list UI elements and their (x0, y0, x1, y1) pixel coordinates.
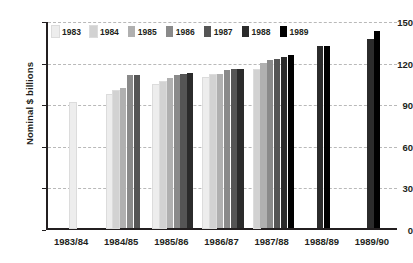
y-axis-title: Nominal $ billions (24, 29, 35, 179)
bar (180, 74, 186, 228)
bar (317, 46, 323, 228)
bar (260, 63, 266, 228)
bar-group (198, 22, 248, 228)
bar (120, 88, 126, 228)
legend-item: 1983 (52, 26, 81, 37)
legend-label: 1989 (290, 27, 309, 37)
legend-label: 1988 (252, 27, 271, 37)
x-tick-label: 1986/87 (204, 236, 238, 247)
bar-chart: Nominal $ billions 0306090120150 1983/84… (0, 0, 413, 263)
bar (288, 55, 294, 228)
bar (203, 78, 209, 228)
bar (324, 46, 330, 228)
bar (224, 70, 230, 228)
legend-label: 1984 (100, 27, 119, 37)
bar-group (148, 22, 198, 228)
bar (374, 31, 380, 228)
legend-swatch (128, 26, 135, 37)
legend-swatch (166, 26, 173, 37)
bar (254, 70, 260, 228)
bar (107, 95, 113, 228)
bar (267, 60, 273, 228)
x-tick-label: 1983/84 (54, 236, 88, 247)
x-tick-label: 1985/86 (154, 236, 188, 247)
plot-area (46, 22, 397, 230)
bar (174, 75, 180, 228)
legend-swatch (52, 26, 59, 37)
legend-label: 1986 (176, 27, 195, 37)
x-tick-label: 1987/88 (254, 236, 288, 247)
bar (237, 69, 243, 228)
legend-item: 1986 (166, 26, 195, 37)
bar-group (48, 22, 98, 228)
legend-swatch (90, 26, 97, 37)
bar (134, 75, 140, 228)
legend-swatch (280, 26, 287, 37)
bar-series-container (48, 22, 397, 228)
legend-item: 1985 (128, 26, 157, 37)
bar-group (349, 22, 399, 228)
bar (210, 75, 216, 228)
legend: 1983198419851986198719881989 (52, 26, 317, 37)
bar (367, 39, 373, 228)
bar (153, 85, 159, 228)
bar (113, 91, 119, 228)
x-tick-label: 1989/90 (355, 236, 389, 247)
bar-group (98, 22, 148, 228)
bar (231, 69, 237, 228)
legend-swatch (204, 26, 211, 37)
x-tick-label: 1984/85 (104, 236, 138, 247)
bar (70, 103, 76, 228)
bar (187, 73, 193, 228)
legend-item: 1989 (280, 26, 309, 37)
legend-label: 1985 (138, 27, 157, 37)
bar (160, 82, 166, 228)
legend-swatch (242, 26, 249, 37)
legend-item: 1984 (90, 26, 119, 37)
bar (167, 78, 173, 228)
bar (127, 75, 133, 228)
legend-label: 1983 (62, 27, 81, 37)
legend-item: 1987 (204, 26, 233, 37)
bar (217, 74, 223, 228)
legend-item: 1988 (242, 26, 271, 37)
bar (281, 57, 287, 228)
bar-group (249, 22, 299, 228)
y-tick-mark (42, 230, 46, 231)
bar-group (299, 22, 349, 228)
legend-label: 1987 (214, 27, 233, 37)
bar (274, 59, 280, 228)
x-tick-label: 1988/89 (305, 236, 339, 247)
